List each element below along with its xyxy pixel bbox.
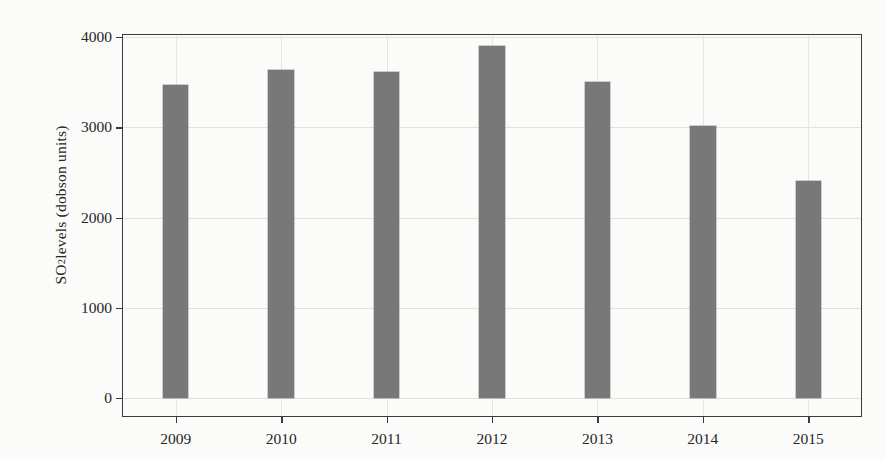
bar-2010[interactable] — [268, 70, 293, 398]
y-axis-title-subscript: 2 — [56, 259, 67, 264]
y-axis-title: SO2 levels (dobson units) — [48, 10, 74, 400]
y-axis-tick-label: 2000 — [81, 209, 112, 227]
bar-2014[interactable] — [690, 126, 715, 398]
x-axis-tick — [597, 416, 598, 423]
y-axis-tick-label: 0 — [104, 389, 112, 407]
x-axis-tick-label-2009: 2009 — [160, 430, 191, 448]
plot-area: 01000200030004000 2009201020112012201320… — [122, 34, 862, 417]
bar-2011[interactable] — [374, 72, 399, 398]
y-axis-title-suffix: levels (dobson units) — [52, 125, 70, 258]
x-axis-tick — [387, 416, 388, 423]
y-axis-tick-label: 1000 — [81, 299, 112, 317]
x-axis-tick — [808, 416, 809, 423]
y-axis-tick — [116, 218, 123, 219]
x-axis-tick-label-2011: 2011 — [371, 430, 401, 448]
x-axis-tick — [703, 416, 704, 423]
y-axis-tick-label: 3000 — [81, 118, 112, 136]
x-axis-tick-label-2014: 2014 — [687, 430, 718, 448]
y-axis-tick — [116, 127, 123, 128]
bar-series — [123, 35, 861, 416]
x-axis-tick-label-2015: 2015 — [793, 430, 824, 448]
y-axis-tick — [116, 37, 123, 38]
x-axis-tick — [176, 416, 177, 423]
x-axis-tick-label-2012: 2012 — [477, 430, 508, 448]
y-axis-tick — [116, 398, 123, 399]
x-axis-tick — [492, 416, 493, 423]
x-axis-tick — [281, 416, 282, 423]
bar-2013[interactable] — [585, 82, 610, 398]
y-axis-tick — [116, 308, 123, 309]
x-axis-tick-label-2010: 2010 — [266, 430, 297, 448]
bar-2015[interactable] — [796, 181, 821, 398]
y-axis-tick-label: 4000 — [81, 28, 112, 46]
x-axis-tick-label-2013: 2013 — [582, 430, 613, 448]
bar-2009[interactable] — [163, 85, 188, 398]
bar-chart-figure: SO2 levels (dobson units) 01000200030004… — [0, 0, 886, 460]
y-axis-title-prefix: SO — [52, 264, 70, 284]
bar-2012[interactable] — [479, 46, 504, 398]
